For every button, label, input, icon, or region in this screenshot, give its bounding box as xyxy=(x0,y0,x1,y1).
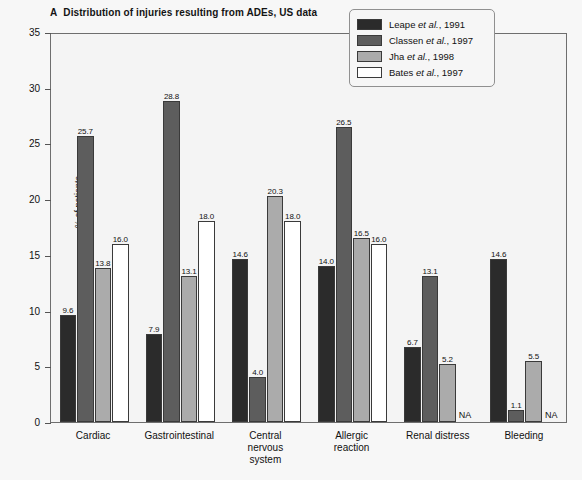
y-tick-label: 10 xyxy=(29,306,40,317)
bar-value-label: 16.0 xyxy=(107,235,134,244)
bar xyxy=(198,221,215,422)
bar-value-label: 16.0 xyxy=(366,235,393,244)
legend-item: Jha et al., 1998 xyxy=(357,48,486,64)
y-tick-mark xyxy=(45,200,51,201)
bar-value-label: 20.3 xyxy=(262,187,289,196)
bar-value-label: 28.8 xyxy=(158,92,185,101)
y-tick-mark xyxy=(45,367,51,368)
x-category-label: Bleeding xyxy=(469,430,579,442)
y-tick-label: 35 xyxy=(29,27,40,38)
bar xyxy=(232,259,249,422)
bar xyxy=(318,266,335,422)
bar-value-label: 18.0 xyxy=(279,212,306,221)
bar-na-label: NA xyxy=(453,410,478,420)
y-tick-mark xyxy=(45,256,51,257)
bar-value-label: 14.6 xyxy=(485,250,512,259)
bar-value-label: 14.6 xyxy=(227,250,254,259)
bar-value-label: 26.5 xyxy=(331,118,358,127)
y-tick-mark xyxy=(45,144,51,145)
bar xyxy=(267,196,284,422)
bar xyxy=(112,244,129,422)
legend-item: Bates et al., 1997 xyxy=(357,64,486,80)
y-tick-label: 20 xyxy=(29,194,40,205)
bar xyxy=(490,259,507,422)
y-tick-mark xyxy=(45,33,51,34)
y-tick-label: 15 xyxy=(29,250,40,261)
legend: Leape et al., 1991Classen et al., 1997Jh… xyxy=(349,9,495,87)
bar xyxy=(181,276,198,422)
bar xyxy=(95,268,112,422)
figure: ADistribution of injuries resulting from… xyxy=(0,0,582,480)
panel-letter: A xyxy=(50,7,57,18)
legend-label: Jha et al., 1998 xyxy=(389,51,454,62)
bar xyxy=(77,136,94,422)
bar-value-label: 5.5 xyxy=(520,352,547,361)
y-tick-mark xyxy=(45,423,51,424)
bar-value-label: 13.1 xyxy=(417,267,444,276)
bar-value-label: 5.2 xyxy=(434,355,461,364)
bar xyxy=(353,238,370,422)
bar xyxy=(371,244,388,422)
legend-item: Leape et al., 1991 xyxy=(357,16,486,32)
legend-swatch xyxy=(357,51,382,62)
legend-swatch xyxy=(357,67,382,78)
plot-area: % of patients 05101520253035 9.625.713.8… xyxy=(50,33,567,423)
y-tick-label: 30 xyxy=(29,83,40,94)
legend-label: Classen et al., 1997 xyxy=(389,35,473,46)
legend-label: Bates et al., 1997 xyxy=(389,67,463,78)
bar xyxy=(284,221,301,422)
bar xyxy=(508,410,525,422)
y-tick-mark xyxy=(45,312,51,313)
legend-swatch xyxy=(357,35,382,46)
y-tick-label: 25 xyxy=(29,138,40,149)
bar xyxy=(422,276,439,422)
bar-na-label: NA xyxy=(539,410,564,420)
bar xyxy=(249,377,266,422)
bar xyxy=(146,334,163,422)
bar-value-label: 25.7 xyxy=(72,127,99,136)
legend-label: Leape et al., 1991 xyxy=(389,19,465,30)
bar xyxy=(404,347,421,422)
legend-item: Classen et al., 1997 xyxy=(357,32,486,48)
y-tick-label: 0 xyxy=(34,417,40,428)
chart-title-text: Distribution of injuries resulting from … xyxy=(63,7,317,18)
bar xyxy=(336,127,353,422)
chart-title: ADistribution of injuries resulting from… xyxy=(50,7,317,18)
y-tick-label: 5 xyxy=(34,361,40,372)
y-tick-mark xyxy=(45,89,51,90)
legend-swatch xyxy=(357,19,382,30)
bar xyxy=(163,101,180,422)
bar xyxy=(60,315,77,422)
bar-value-label: 18.0 xyxy=(193,212,220,221)
